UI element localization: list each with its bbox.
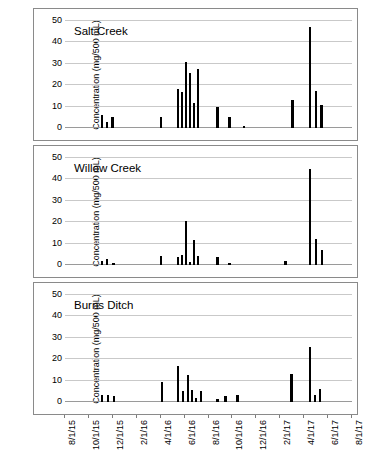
- x-tick: [160, 415, 161, 418]
- x-tick: [351, 415, 352, 418]
- x-tick-label: 8/1/17: [355, 420, 364, 445]
- bar: [224, 396, 226, 402]
- bar: [177, 257, 179, 265]
- bar: [181, 255, 183, 265]
- bar: [200, 391, 202, 402]
- x-tick: [136, 415, 137, 418]
- y-tick-label: 50: [52, 290, 62, 299]
- y-tick-label: 0: [57, 397, 62, 406]
- bar: [309, 169, 311, 265]
- bar: [191, 390, 193, 402]
- bar: [189, 262, 191, 265]
- x-tick-label: 2/1/16: [140, 420, 149, 445]
- panel-salt-creek: Concentration (mg/500 mL) Salt Creek 010…: [33, 8, 358, 141]
- multi-panel-bar-chart-figure: Concentration (mg/500 mL) Salt Creek 010…: [0, 0, 368, 460]
- y-tick-label: 10: [52, 101, 62, 110]
- bar: [187, 375, 189, 402]
- x-tick-label: 6/1/16: [188, 420, 197, 445]
- bar: [228, 117, 230, 128]
- x-tick: [255, 415, 256, 418]
- bar: [284, 261, 286, 265]
- panel-burns-ditch: Concentration (mg/500 mL) Burns Ditch 01…: [33, 282, 358, 415]
- bar: [112, 263, 114, 265]
- bar: [111, 117, 113, 128]
- bar: [216, 399, 218, 402]
- x-tick-label: 2/1/17: [283, 420, 292, 445]
- bar: [113, 396, 115, 402]
- bar: [195, 398, 197, 402]
- x-tick: [231, 415, 232, 418]
- x-tick-label: 10/1/16: [235, 420, 244, 450]
- bar: [189, 73, 191, 128]
- bar: [101, 395, 103, 402]
- bar: [193, 240, 195, 265]
- gridline: 30: [65, 337, 352, 338]
- bar: [216, 257, 218, 265]
- bar: [101, 115, 103, 128]
- x-tick: [208, 415, 209, 418]
- x-tick: [327, 415, 328, 418]
- y-tick-label: 40: [52, 37, 62, 46]
- x-tick-label: 8/1/16: [212, 420, 221, 445]
- bar: [320, 105, 322, 128]
- x-tick-label: 12/1/16: [259, 420, 268, 450]
- plot-area-burns-ditch: 01020304050: [65, 295, 352, 402]
- y-axis-label-wrap-0: Concentration (mg/500 mL): [42, 9, 56, 140]
- gridline: 50: [65, 20, 352, 21]
- y-tick-label: 20: [52, 80, 62, 89]
- bar: [106, 122, 108, 128]
- bar: [161, 382, 163, 402]
- plot-area-salt-creek: 01020304050: [65, 21, 352, 128]
- bar: [101, 261, 103, 265]
- x-tick-label: 4/1/17: [307, 420, 316, 445]
- bar: [182, 391, 184, 402]
- y-tick-label: 20: [52, 217, 62, 226]
- y-axis-label-wrap-2: Concentration (mg/500 mL): [42, 283, 56, 414]
- y-tick-label: 0: [57, 260, 62, 269]
- y-tick-label: 0: [57, 123, 62, 132]
- gridline: 40: [65, 315, 352, 316]
- bar: [309, 347, 311, 402]
- bar: [160, 256, 162, 265]
- bar: [160, 117, 162, 128]
- x-tick: [88, 415, 89, 418]
- x-tick: [279, 415, 280, 418]
- bar: [193, 103, 195, 128]
- x-tick-label: 6/1/17: [331, 420, 340, 445]
- gridline: 50: [65, 157, 352, 158]
- bar: [197, 256, 199, 265]
- bar: [321, 250, 323, 265]
- bar: [309, 27, 311, 128]
- y-axis-label-wrap-1: Concentration (mg/500 mL): [42, 146, 56, 277]
- panel-willow-creek: Concentration (mg/500 mL) Willow Creek 0…: [33, 145, 358, 278]
- bar: [107, 395, 109, 402]
- bar: [315, 91, 317, 128]
- y-tick-label: 20: [52, 354, 62, 363]
- bar: [315, 239, 317, 265]
- x-tick-label: 10/1/15: [92, 420, 101, 450]
- y-tick-label: 30: [52, 195, 62, 204]
- bar: [243, 126, 245, 128]
- x-tick: [184, 415, 185, 418]
- y-tick-label: 30: [52, 58, 62, 67]
- y-tick-label: 10: [52, 375, 62, 384]
- bar: [228, 263, 230, 265]
- bar: [236, 395, 238, 402]
- x-axis: 8/1/1510/1/1512/1/152/1/164/1/166/1/168/…: [33, 415, 358, 460]
- x-tick: [112, 415, 113, 418]
- y-tick-label: 40: [52, 174, 62, 183]
- gridline: 50: [65, 294, 352, 295]
- bar: [185, 221, 187, 265]
- bar: [197, 69, 199, 128]
- bar: [319, 389, 321, 402]
- y-tick-label: 40: [52, 311, 62, 320]
- x-tick-label: 4/1/16: [164, 420, 173, 445]
- bar: [291, 100, 293, 128]
- y-tick-label: 50: [52, 153, 62, 162]
- bar: [290, 374, 292, 402]
- plot-area-willow-creek: 01020304050: [65, 158, 352, 265]
- bar: [216, 107, 218, 128]
- y-tick-label: 30: [52, 332, 62, 341]
- x-tick-label: 12/1/15: [116, 420, 125, 450]
- x-tick: [303, 415, 304, 418]
